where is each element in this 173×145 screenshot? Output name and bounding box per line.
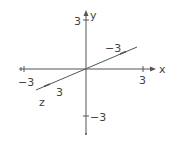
x-axis-label: x: [159, 63, 166, 76]
z-axis-tick-label-min: −3: [105, 42, 121, 55]
z-axis-label: z: [39, 96, 45, 109]
y-axis-tick-label-max: 3: [74, 15, 81, 28]
y-axis-tick-label-min: −3: [90, 111, 106, 124]
y-axis-arrow: [84, 10, 89, 16]
z-axis-tick-max: [44, 84, 50, 87]
x-axis-tick-label-min: −3: [18, 76, 34, 89]
y-axis-label: y: [90, 9, 97, 22]
x-axis-tick-label-max: 3: [139, 74, 146, 87]
z-axis-tick-label-max: 3: [56, 86, 63, 99]
axes-diagram: x −3 3 y 3 −3 z 3 −3: [0, 0, 173, 145]
y-axis-end-dot: [85, 133, 87, 135]
x-axis-arrow: [150, 67, 156, 72]
axes-svg: x −3 3 y 3 −3 z 3 −3: [0, 0, 173, 145]
